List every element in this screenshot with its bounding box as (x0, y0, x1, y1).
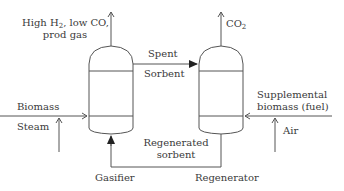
biomass-fuel-text: biomass (fuel) (257, 101, 329, 112)
supplemental-text: Supplemental (257, 89, 327, 100)
spent-sorbent-top-label: Spent (148, 48, 178, 60)
co2-subscript: 2 (242, 23, 246, 31)
product-gas-label: High H2, low CO, prod gas (22, 17, 108, 41)
co2-text: CO (226, 18, 242, 29)
sorbent-text: sorbent (157, 149, 196, 160)
biomass-label: Biomass (17, 101, 59, 113)
product-gas-line2: prod gas (43, 29, 87, 40)
regenerated-text: Regenerated (143, 137, 208, 148)
spent-sorbent-bottom-label: Sorbent (144, 68, 184, 80)
air-label: Air (283, 125, 298, 137)
steam-label: Steam (17, 121, 49, 133)
co2-label: CO2 (226, 18, 246, 30)
regenerator-label: Regenerator (195, 172, 259, 184)
product-gas-text: High H (22, 17, 59, 28)
regenerated-sorbent-label: Regenerated sorbent (136, 137, 216, 161)
gasifier-vessel (89, 46, 133, 134)
product-gas-text-2: , low CO, (63, 17, 109, 28)
regenerator-vessel (199, 46, 243, 134)
supplemental-biomass-label: Supplemental biomass (fuel) (257, 89, 329, 113)
gasifier-label: Gasifier (95, 172, 135, 184)
